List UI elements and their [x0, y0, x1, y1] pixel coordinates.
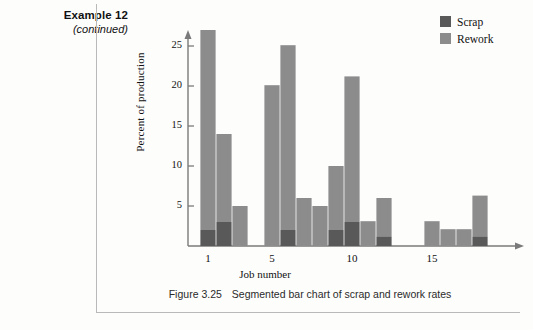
page-background: Example 12 (continued) Scrap Rework Perc…	[0, 0, 533, 330]
bar-segment-scrap	[344, 222, 359, 246]
bottom-rule-divider	[96, 312, 520, 313]
bar-chart-plot: Percent of production Job number 5101520…	[100, 6, 528, 306]
vertical-rule-divider	[96, 4, 97, 312]
bar-segment-rework	[376, 198, 391, 236]
bar-segment-rework	[216, 134, 231, 222]
x-tick-label: 5	[260, 252, 284, 264]
x-axis-title: Job number	[100, 268, 430, 280]
bar-segment-scrap	[328, 230, 343, 246]
bar-segment-scrap	[200, 230, 215, 246]
bar-segment-rework	[200, 30, 215, 230]
y-tick-label: 5	[156, 199, 182, 210]
figure-caption-number: Figure 3.25	[169, 288, 222, 300]
bar-segment-rework	[328, 166, 343, 230]
figure-container: Scrap Rework Percent of production Job n…	[100, 6, 528, 306]
y-tick-label: 20	[156, 79, 182, 90]
bar-segment-rework	[360, 221, 375, 246]
chart-svg-canvas	[100, 6, 528, 306]
bar-segment-rework	[280, 45, 295, 230]
bar-segment-scrap	[216, 222, 231, 246]
x-tick-label: 10	[340, 252, 364, 264]
bar-segment-rework	[456, 229, 471, 246]
bar-segment-rework	[472, 196, 487, 237]
bar-segment-rework	[424, 221, 439, 246]
bar-segment-scrap	[472, 236, 487, 246]
bar-segment-rework	[344, 76, 359, 222]
figure-caption-text: Segmented bar chart of scrap and rework …	[232, 288, 451, 300]
figure-caption: Figure 3.25Segmented bar chart of scrap …	[100, 288, 520, 300]
bar-segment-rework	[440, 229, 455, 246]
bar-segment-scrap	[376, 236, 391, 246]
bar-segment-rework	[232, 206, 247, 246]
bar-segment-rework	[296, 198, 311, 246]
x-tick-label: 15	[420, 252, 444, 264]
bar-segment-rework	[312, 206, 327, 246]
y-tick-label: 10	[156, 159, 182, 170]
x-tick-label: 1	[196, 252, 220, 264]
y-axis-title: Percent of production	[134, 32, 146, 172]
y-tick-label: 25	[156, 39, 182, 50]
bar-segment-scrap	[280, 230, 295, 246]
bar-segment-rework	[264, 85, 279, 246]
y-tick-label: 15	[156, 119, 182, 130]
